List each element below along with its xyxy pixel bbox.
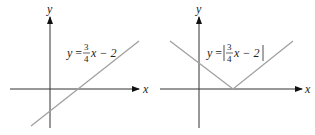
equation-label: y = 3 4 x − 2 xyxy=(66,42,116,64)
equation-label: y = 3 4 x − 2 xyxy=(206,42,263,64)
v-curve xyxy=(170,41,293,89)
figure: x y y = 3 4 x − 2 x y y = 3 4 x − 2 xyxy=(0,0,315,135)
x-axis-label: x xyxy=(304,82,311,96)
svg-text:y =: y = xyxy=(66,46,82,60)
svg-text:y =: y = xyxy=(206,46,222,60)
x-axis-label: x xyxy=(142,82,149,96)
svg-text:x − 2: x − 2 xyxy=(90,46,116,60)
svg-text:4: 4 xyxy=(227,54,232,64)
svg-text:x − 2: x − 2 xyxy=(233,46,259,60)
y-axis-label: y xyxy=(195,2,202,16)
graph-linear: x y y = 3 4 x − 2 xyxy=(10,2,149,128)
svg-text:3: 3 xyxy=(84,42,89,52)
svg-text:3: 3 xyxy=(227,42,232,52)
graph-absolute-value: x y y = 3 4 x − 2 xyxy=(160,2,311,128)
y-axis-label: y xyxy=(46,2,53,16)
svg-text:4: 4 xyxy=(84,54,89,64)
